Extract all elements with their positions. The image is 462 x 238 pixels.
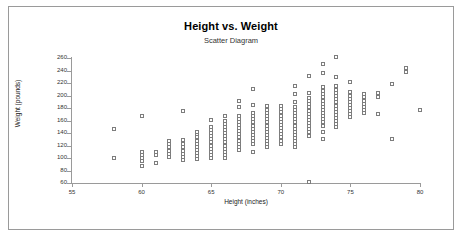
data-point-marker [154, 150, 158, 154]
x-axis-tick-label: 70 [266, 189, 296, 195]
data-point-marker [348, 90, 352, 94]
data-point-marker [209, 125, 213, 129]
data-point-marker [321, 85, 325, 89]
data-point-marker [223, 119, 227, 123]
y-axis-tick-label: 140 [30, 129, 67, 137]
data-point-marker [237, 99, 241, 103]
y-axis-tick [67, 71, 71, 72]
x-axis-tick-label: 65 [196, 189, 226, 195]
data-point-marker [140, 164, 144, 168]
chart-subtitle: Scatter Diagram [0, 36, 462, 45]
data-point-marker [195, 130, 199, 134]
y-axis-tick [67, 96, 71, 97]
y-axis-tick-value: 60 [37, 179, 67, 185]
data-point-marker [154, 161, 158, 165]
y-axis-tick-label: 180 [30, 104, 67, 112]
data-point-marker [390, 82, 394, 86]
data-point-marker [265, 108, 269, 112]
data-point-marker [418, 108, 422, 112]
data-point-marker [362, 95, 366, 99]
data-point-marker [321, 71, 325, 75]
y-axis-tick-label: 200 [30, 92, 67, 100]
x-axis-tick-label: 55 [57, 189, 87, 195]
data-point-marker [237, 114, 241, 118]
data-point-marker [307, 180, 311, 184]
y-axis-tick-label: 240 [30, 67, 67, 75]
y-axis-tick [67, 158, 71, 159]
y-axis-tick-value: 180 [37, 104, 67, 110]
data-point-marker [181, 109, 185, 113]
y-axis-tick-value: 260 [37, 54, 67, 60]
y-axis-tick-label: 260 [30, 54, 67, 62]
y-axis-tick [67, 83, 71, 84]
y-axis-tick-value: 100 [37, 154, 67, 160]
y-axis-tick-value: 240 [37, 67, 67, 73]
data-point-marker [265, 104, 269, 108]
y-axis-tick-label: 120 [30, 142, 67, 150]
data-point-marker [112, 127, 116, 131]
y-axis-tick [67, 146, 71, 147]
y-axis-tick-label: 220 [30, 79, 67, 87]
data-point-marker [348, 94, 352, 98]
y-axis-tick-value: 120 [37, 142, 67, 148]
y-axis-tick-label: 160 [30, 117, 67, 125]
data-point-marker [334, 84, 338, 88]
data-point-marker [334, 55, 338, 59]
data-point-marker [251, 103, 255, 107]
screenshot-canvas: Height vs. Weight Scatter Diagram Weight… [0, 0, 462, 238]
data-point-marker [167, 139, 171, 143]
data-point-marker [404, 70, 408, 74]
x-axis-title: Height (inches) [72, 198, 420, 205]
x-axis-tick-label: 60 [127, 189, 157, 195]
data-point-marker [140, 150, 144, 154]
data-point-marker [181, 138, 185, 142]
data-point-marker [279, 104, 283, 108]
data-point-marker [140, 114, 144, 118]
data-point-marker [321, 89, 325, 93]
chart-title: Height vs. Weight [0, 20, 462, 32]
y-axis-tick [67, 183, 71, 184]
data-point-marker [307, 91, 311, 95]
data-point-marker [307, 74, 311, 78]
y-axis-tick [67, 121, 71, 122]
y-axis-tick-label: 100 [30, 154, 67, 162]
x-axis-tick [281, 183, 282, 187]
y-axis-tick-value: 140 [37, 129, 67, 135]
data-point-marker [237, 105, 241, 109]
x-axis-tick [72, 183, 73, 187]
data-point-marker [362, 92, 366, 96]
x-axis-tick [420, 183, 421, 187]
x-axis-tick [142, 183, 143, 187]
y-axis-tick [67, 108, 71, 109]
data-point-marker [321, 130, 325, 134]
data-point-marker [293, 84, 297, 88]
data-point-marker [293, 105, 297, 109]
data-point-marker [376, 91, 380, 95]
y-axis-title: Weight (pounds) [14, 54, 21, 154]
data-point-marker [348, 80, 352, 84]
x-axis-line [71, 183, 421, 184]
x-axis-tick-label: 80 [405, 189, 435, 195]
y-axis-tick-value: 160 [37, 117, 67, 123]
data-point-marker [321, 62, 325, 66]
y-axis-tick-value: 80 [37, 167, 67, 173]
data-point-marker [251, 150, 255, 154]
plot-area [72, 58, 420, 183]
y-axis-tick [67, 58, 71, 59]
data-point-marker [390, 137, 394, 141]
data-point-marker [404, 66, 408, 70]
y-axis-tick [67, 171, 71, 172]
y-axis-tick-value: 220 [37, 79, 67, 85]
data-point-marker [167, 142, 171, 146]
y-axis-tick-value: 200 [37, 92, 67, 98]
x-axis-tick-label: 75 [335, 189, 365, 195]
x-axis-tick [350, 183, 351, 187]
data-point-marker [209, 118, 213, 122]
y-axis-tick-label: 80 [30, 167, 67, 175]
data-point-marker [251, 111, 255, 115]
data-point-marker [112, 156, 116, 160]
data-point-marker [293, 92, 297, 96]
data-point-marker [293, 100, 297, 104]
data-point-marker [307, 96, 311, 100]
data-point-marker [181, 142, 185, 146]
